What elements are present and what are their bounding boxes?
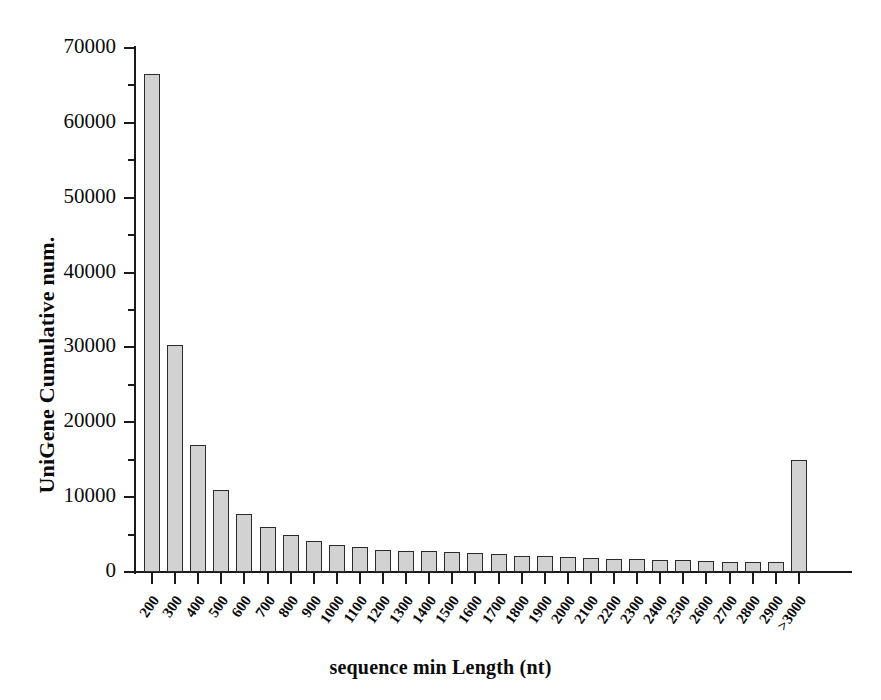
bar-chart: UniGene Cumulative num. 0100002000030000… bbox=[0, 0, 881, 700]
y-tick bbox=[124, 197, 135, 199]
bar bbox=[491, 554, 507, 572]
x-tick bbox=[405, 573, 407, 584]
bar bbox=[768, 562, 784, 572]
x-tick bbox=[243, 573, 245, 584]
x-tick bbox=[382, 573, 384, 584]
bar bbox=[236, 514, 252, 572]
x-tick bbox=[336, 573, 338, 584]
bar bbox=[652, 560, 668, 572]
bar bbox=[514, 556, 530, 572]
bar bbox=[722, 562, 738, 572]
x-tick bbox=[197, 573, 199, 584]
y-tick-label-text: 70000 bbox=[64, 34, 117, 59]
bar bbox=[537, 556, 553, 572]
bar bbox=[283, 535, 299, 572]
y-tick-label-text: 10000 bbox=[64, 483, 117, 508]
bar bbox=[745, 562, 761, 572]
bar bbox=[398, 551, 414, 572]
x-tick bbox=[613, 573, 615, 584]
y-tick bbox=[124, 122, 135, 124]
bar bbox=[444, 552, 460, 572]
bar bbox=[583, 558, 599, 572]
y-tick bbox=[124, 421, 135, 423]
y-axis-title: UniGene Cumulative num. bbox=[34, 155, 60, 575]
y-minor-tick bbox=[128, 384, 135, 386]
x-tick bbox=[428, 573, 430, 584]
y-tick-label-text: 60000 bbox=[64, 109, 117, 134]
y-tick-label-text: 30000 bbox=[64, 333, 117, 358]
x-tick bbox=[521, 573, 523, 584]
y-tick bbox=[124, 272, 135, 274]
bar bbox=[213, 490, 229, 572]
y-tick-label-text: 20000 bbox=[64, 408, 117, 433]
y-tick-label-text: 0 bbox=[106, 558, 117, 583]
y-tick bbox=[124, 571, 135, 573]
y-tick-label-text: 50000 bbox=[64, 184, 117, 209]
bar bbox=[375, 550, 391, 572]
x-tick bbox=[567, 573, 569, 584]
x-tick bbox=[798, 573, 800, 584]
y-minor-tick bbox=[128, 534, 135, 536]
x-tick bbox=[590, 573, 592, 584]
x-tick bbox=[775, 573, 777, 584]
bar bbox=[144, 74, 160, 572]
x-tick bbox=[752, 573, 754, 584]
x-tick bbox=[474, 573, 476, 584]
bar bbox=[560, 557, 576, 572]
x-tick bbox=[151, 573, 153, 584]
bar bbox=[329, 545, 345, 572]
x-tick bbox=[174, 573, 176, 584]
y-minor-tick bbox=[128, 234, 135, 236]
x-tick bbox=[451, 573, 453, 584]
y-minor-tick bbox=[128, 159, 135, 161]
bar bbox=[352, 547, 368, 572]
x-tick bbox=[290, 573, 292, 584]
bar bbox=[467, 553, 483, 572]
bar bbox=[306, 541, 322, 572]
y-tick bbox=[124, 346, 135, 348]
y-minor-tick bbox=[128, 309, 135, 311]
y-minor-tick bbox=[128, 84, 135, 86]
bar bbox=[190, 445, 206, 572]
bar bbox=[629, 559, 645, 572]
x-tick bbox=[267, 573, 269, 584]
x-tick bbox=[544, 573, 546, 584]
x-tick bbox=[498, 573, 500, 584]
bar bbox=[421, 551, 437, 572]
y-minor-tick bbox=[128, 459, 135, 461]
y-tick bbox=[124, 496, 135, 498]
bar bbox=[606, 559, 622, 572]
x-tick bbox=[636, 573, 638, 584]
y-tick bbox=[124, 47, 135, 49]
x-tick bbox=[659, 573, 661, 584]
x-tick bbox=[359, 573, 361, 584]
bar bbox=[675, 560, 691, 572]
x-axis-title: sequence min Length (nt) bbox=[0, 656, 881, 679]
x-tick bbox=[705, 573, 707, 584]
x-tick bbox=[682, 573, 684, 584]
bar bbox=[698, 561, 714, 572]
x-tick bbox=[220, 573, 222, 584]
bar bbox=[791, 460, 807, 572]
bar bbox=[260, 527, 276, 572]
bar bbox=[167, 345, 183, 572]
y-tick-label-text: 40000 bbox=[64, 259, 117, 284]
x-tick bbox=[313, 573, 315, 584]
x-tick bbox=[729, 573, 731, 584]
